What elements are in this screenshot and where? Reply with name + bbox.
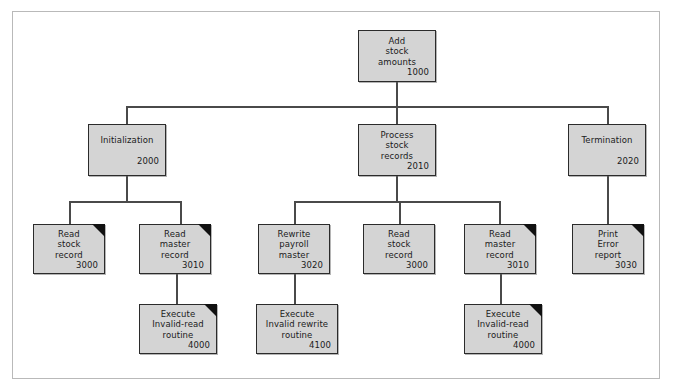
node-module-number: 4000	[188, 340, 211, 351]
node-label-line: Execute	[161, 309, 196, 320]
node-label-line: Read	[388, 229, 410, 240]
node-read-master-record-3010-a[interactable]: Readmasterrecord3010	[139, 224, 211, 274]
node-label-line: Termination	[582, 135, 633, 146]
node-label-line: stock	[385, 46, 408, 57]
connector-drop-initialization	[126, 106, 128, 124]
node-add-stock-amounts[interactable]: Addstockamounts1000	[358, 30, 436, 82]
node-module-number: 3030	[615, 260, 638, 271]
node-execute-invalid-read-routine-4000-b[interactable]: ExecuteInvalid-readroutine4000	[464, 304, 542, 354]
node-label-line: record	[55, 250, 83, 261]
folded-corner-icon	[631, 224, 644, 237]
connector-read-master-b-stem	[500, 274, 502, 305]
node-rewrite-payroll-master-3020[interactable]: Rewritepayrollmaster3020	[258, 224, 330, 274]
node-label-line: Execute	[486, 309, 521, 320]
connector-init-bus	[69, 201, 181, 203]
node-label-line: payroll	[279, 239, 309, 250]
node-label-line: Invalid rewrite	[266, 319, 328, 330]
node-label-line: record	[486, 250, 514, 261]
node-label-line: record	[161, 250, 189, 261]
node-label-line: records	[381, 151, 413, 162]
node-label-line: Print	[598, 229, 618, 240]
node-read-stock-record-3000-b[interactable]: Readstockrecord3000	[363, 224, 435, 274]
connector-read-master-a-stem	[176, 274, 178, 305]
node-label-line: stock	[387, 239, 410, 250]
connector-drop-read-stock-b	[399, 201, 401, 224]
node-label-line: Read	[58, 229, 80, 240]
diagram-canvas: Addstockamounts1000Initialization 2000Pr…	[0, 0, 673, 392]
node-label-line: Rewrite	[278, 229, 311, 240]
node-module-number: 2000	[137, 156, 160, 167]
node-module-number: 2020	[617, 156, 640, 167]
connector-drop-process	[396, 106, 398, 124]
folded-corner-icon	[529, 304, 542, 317]
connector-drop-termination	[607, 106, 609, 124]
node-label-line: Execute	[280, 309, 315, 320]
connector-drop-read-stock-a	[69, 201, 71, 224]
node-execute-invalid-rewrite-routine-4100[interactable]: ExecuteInvalid rewriteroutine4100	[256, 304, 338, 354]
node-module-number: 4000	[513, 340, 536, 351]
node-label-line: Process	[381, 130, 414, 141]
node-label-line: Add	[389, 36, 406, 47]
connector-drop-rewrite	[294, 201, 296, 224]
node-label-line: stock	[57, 239, 80, 250]
node-initialization[interactable]: Initialization 2000	[88, 124, 166, 176]
node-module-number: 3000	[406, 260, 429, 271]
node-label-line: master	[485, 239, 516, 250]
connector-termination-stem	[607, 176, 609, 224]
node-label-line: routine	[163, 330, 194, 341]
node-label-line	[126, 145, 129, 156]
node-read-master-record-3010-b[interactable]: Readmasterrecord3010	[464, 224, 536, 274]
node-label-line	[606, 145, 609, 156]
connector-process-stem	[396, 176, 398, 202]
node-label-line: Invalid-read	[477, 319, 529, 330]
node-termination[interactable]: Termination 2020	[568, 124, 646, 176]
node-module-number: 2010	[407, 161, 430, 172]
node-label-line: routine	[282, 330, 313, 341]
node-label-line: Error	[597, 239, 618, 250]
node-label-line: master	[279, 250, 310, 261]
node-label-line: stock	[385, 140, 408, 151]
node-label-line: Initialization	[100, 135, 153, 146]
node-module-number: 1000	[407, 67, 430, 78]
node-label-line: Invalid-read	[152, 319, 204, 330]
connector-process-bus	[294, 201, 500, 203]
node-module-number: 3010	[507, 260, 530, 271]
folded-corner-icon	[92, 224, 105, 237]
node-label-line: report	[595, 250, 622, 261]
node-module-number: 3020	[301, 260, 324, 271]
node-execute-invalid-read-routine-4000-a[interactable]: ExecuteInvalid-readroutine4000	[139, 304, 217, 354]
connector-init-stem	[126, 176, 128, 202]
connector-drop-read-master-b	[499, 201, 501, 224]
folded-corner-icon	[523, 224, 536, 237]
connector-root-stem	[396, 82, 398, 107]
node-label-line: master	[160, 239, 191, 250]
node-process-stock-records[interactable]: Processstockrecords2010	[358, 124, 436, 176]
node-module-number: 4100	[309, 340, 332, 351]
node-label-line: Read	[164, 229, 186, 240]
connector-drop-read-master-a	[180, 201, 182, 224]
node-read-stock-record-3000-a[interactable]: Readstockrecord3000	[33, 224, 105, 274]
node-print-error-report-3030[interactable]: PrintErrorreport3030	[572, 224, 644, 274]
node-label-line: Read	[489, 229, 511, 240]
node-label-line: record	[385, 250, 413, 261]
node-module-number: 3000	[76, 260, 99, 271]
connector-level1-bus	[126, 106, 608, 108]
node-module-number: 3010	[182, 260, 205, 271]
folded-corner-icon	[198, 224, 211, 237]
node-label-line: amounts	[378, 57, 416, 68]
node-label-line: routine	[488, 330, 519, 341]
connector-rewrite-stem	[294, 274, 296, 305]
structure-chart: Addstockamounts1000Initialization 2000Pr…	[0, 0, 673, 392]
folded-corner-icon	[204, 304, 217, 317]
